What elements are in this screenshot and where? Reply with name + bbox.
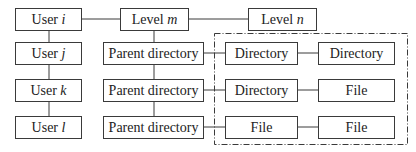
parent-directory-node: Parent directory xyxy=(103,79,204,102)
child-node: File xyxy=(318,79,395,102)
child-node: Directory xyxy=(225,42,298,65)
user-j-node: User j xyxy=(15,42,82,65)
level-variable: n xyxy=(297,12,304,28)
user-variable: j xyxy=(62,46,66,62)
child-node: File xyxy=(225,116,298,139)
child-node: Directory xyxy=(225,79,298,102)
child-node: Directory xyxy=(318,42,395,65)
child-node: File xyxy=(318,116,395,139)
user-label: User xyxy=(32,46,58,62)
user-label: User xyxy=(30,83,56,99)
parent-directory-node: Parent directory xyxy=(103,42,204,65)
user-i-node: User i xyxy=(15,8,82,31)
parent-directory-node: Parent directory xyxy=(103,116,204,139)
level-variable: m xyxy=(167,12,177,28)
level-n-node: Level n xyxy=(248,8,317,31)
user-label: User xyxy=(32,120,58,136)
user-variable: k xyxy=(60,83,66,99)
user-variable: i xyxy=(62,12,66,28)
level-m-node: Level m xyxy=(120,8,189,31)
level-label: Level xyxy=(261,12,293,28)
level-label: Level xyxy=(132,12,164,28)
user-variable: l xyxy=(62,120,66,136)
user-l-node: User l xyxy=(15,116,82,139)
user-label: User xyxy=(32,12,58,28)
user-k-node: User k xyxy=(15,79,82,102)
